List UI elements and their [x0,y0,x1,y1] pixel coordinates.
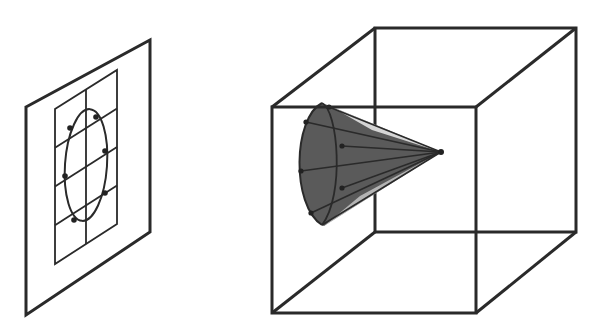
ellipse-sample-point [102,148,108,154]
cube-group [272,28,576,313]
diagram-stage [0,0,602,333]
ellipse-sample-point [93,114,99,120]
image-plane-group [26,40,150,315]
cube-depth-edge [476,232,576,313]
ellipse-sample-point [71,217,77,223]
cube-depth-edge [272,28,375,107]
ellipse-sample-point [67,125,73,131]
cone-apex-point [438,149,444,155]
cube-depth-edge [476,28,576,107]
ellipse-sample-point [62,173,68,179]
cone-base-point [303,119,308,124]
ellipse-sample-point [102,190,108,196]
viewing-cone-group [298,103,444,226]
image-plane-outline [26,40,150,315]
diagram-canvas [0,0,602,333]
cone-base-point [298,168,303,173]
cone-base-point [308,210,313,215]
cone-base-point [339,185,344,190]
cone-base-point [339,143,344,148]
cube-depth-edge [272,232,375,313]
